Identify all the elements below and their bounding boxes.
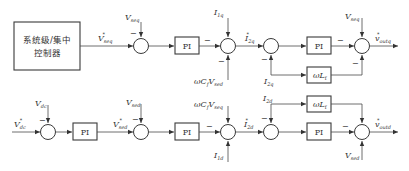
pi-label: PI: [315, 42, 324, 51]
pi-label: PI: [315, 128, 324, 137]
minus-sign: −: [206, 122, 213, 131]
minus-sign: −: [261, 55, 268, 64]
label-vseq-fb: Vseq: [125, 13, 140, 24]
label-vseq-ref: Vseq*: [98, 31, 113, 45]
label-i1d: I1d: [213, 151, 224, 161]
label-wcf-vsed: ωCfVsed: [194, 77, 223, 88]
summing-junction-d1: [134, 125, 149, 140]
summing-junction-d4: [355, 125, 370, 140]
controller-label-line1: 系统级/集中: [23, 35, 71, 45]
pi-label: PI: [81, 128, 90, 137]
minus-sign: −: [261, 114, 268, 123]
label-vout-q: voutq*: [375, 31, 391, 45]
minus-sign: −: [342, 122, 349, 131]
label-i2d-fb: I2d: [262, 94, 273, 104]
label-i2d-ref: I2d*: [243, 117, 254, 130]
minus-sign: −: [39, 116, 46, 125]
label-vdc-ref: Vdc*: [14, 117, 26, 130]
pi-label: PI: [183, 42, 192, 51]
minus-sign: −: [204, 36, 211, 45]
wire: [331, 104, 362, 123]
control-block-diagram: 系统级/集中 控制器 Vseq* Vseq − PI − I1q − ωCfVs…: [0, 0, 409, 171]
label-vsed-ff: Vsed: [345, 151, 360, 161]
summing-junction-q2: [221, 39, 236, 54]
minus-sign: −: [132, 115, 139, 124]
minus-sign: −: [218, 57, 225, 66]
system-controller-block: [14, 22, 80, 70]
summing-junction-q3: [264, 39, 279, 54]
label-i2q-fb: I2q: [263, 77, 274, 88]
label-vseq-ff: Vseq: [345, 12, 360, 23]
summing-junction-q1: [134, 39, 149, 54]
summing-junction-d3: [264, 125, 279, 140]
minus-sign: −: [352, 59, 359, 68]
label-vsed-ref: Vsed*: [113, 117, 128, 130]
row-d: Vdc* Vdc − PI Vsed* Vsed − PI − ωCfVseq …: [12, 94, 398, 162]
label-vsed-fb: Vsed: [126, 98, 141, 108]
pi-label: PI: [183, 128, 192, 137]
label-wcf-vseq: ωCfVseq: [194, 100, 223, 111]
summing-junction-d2: [221, 125, 236, 140]
label-vdc-fb: Vdc: [35, 99, 47, 109]
row-q: 系统级/集中 控制器 Vseq* Vseq − PI − I1q − ωCfVs…: [14, 8, 398, 88]
minus-sign: −: [130, 29, 137, 38]
label-i1q: I1q: [213, 8, 224, 19]
summing-junction-d0: [41, 125, 56, 140]
minus-sign: −: [337, 36, 344, 45]
summing-junction-q4: [355, 39, 370, 54]
label-vout-d: voutd*: [375, 117, 391, 130]
controller-label-line2: 控制器: [34, 48, 61, 58]
label-i2q-ref: I2q*: [244, 31, 255, 45]
